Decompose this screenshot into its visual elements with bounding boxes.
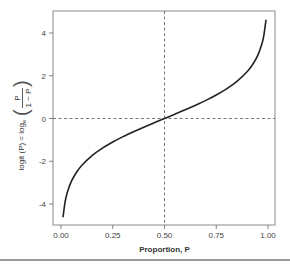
x-tick: 1.00: [260, 225, 276, 240]
ylabel-numerator: P: [13, 95, 22, 100]
x-tick-label: 0.25: [105, 231, 121, 240]
x-axis: 0.00 0.25 0.50 0.75 1.00: [53, 225, 276, 240]
y-tick-label: 2: [42, 72, 47, 81]
right-paren: ): [10, 80, 32, 87]
y-tick: -4: [39, 200, 53, 209]
y-tick: 4: [42, 29, 53, 38]
x-tick-label: 0.75: [208, 231, 224, 240]
y-axis-label-prefix: logit (P) = loge: [17, 120, 27, 170]
y-tick-label: -2: [39, 157, 47, 166]
y-axis: 4 2 0 -2 -4: [39, 29, 53, 209]
logit-chart: 4 2 0 -2 -4 0.00 0.25 0.50: [0, 0, 290, 265]
x-tick-label: 1.00: [260, 231, 276, 240]
x-tick-label: 0.50: [157, 231, 173, 240]
y-axis-label: logit (P) = loge ( P 1 − P ): [10, 80, 33, 170]
x-tick: 0.25: [105, 225, 121, 240]
x-tick: 0.00: [53, 225, 69, 240]
bottom-divider: [0, 259, 290, 261]
y-tick: -2: [39, 157, 53, 166]
x-tick: 0.75: [208, 225, 224, 240]
left-paren: (: [10, 109, 32, 116]
y-tick-label: 4: [42, 29, 47, 38]
y-tick: 0: [42, 115, 53, 124]
ylabel-denominator: 1 − P: [24, 89, 33, 108]
y-tick-label: -4: [39, 200, 47, 209]
x-tick: 0.50: [157, 225, 173, 240]
y-tick-label: 0: [42, 115, 47, 124]
x-axis-label: Proportion, P: [139, 245, 190, 254]
y-tick: 2: [42, 72, 53, 81]
x-tick-label: 0.00: [53, 231, 69, 240]
